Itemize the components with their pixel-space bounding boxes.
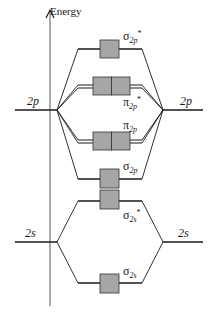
mo-sigma2s: σ2s — [78, 264, 142, 293]
orbital-box — [100, 169, 119, 188]
left-2p-label: 2p — [27, 94, 39, 108]
mo-diagram: Energy 2p 2p 2s 2s σ2p* — [0, 0, 212, 317]
mo-label: σ2s* — [123, 208, 141, 224]
orbital-box — [100, 274, 119, 293]
mo-pi2p: π2p — [78, 118, 142, 150]
orbital-box — [100, 190, 119, 209]
mo-pi2p-star: π2p* — [78, 77, 142, 111]
mo-sigma2p: σ2p — [78, 159, 142, 188]
mo-label: σ2p* — [123, 29, 141, 45]
mo-label: σ2p — [123, 159, 137, 175]
energy-axis — [46, 10, 54, 306]
mo-label: π2p — [123, 118, 137, 134]
mo-sigma2s-star: σ2s* — [78, 190, 142, 224]
orbital-box — [112, 132, 131, 150]
orbital-box — [112, 77, 131, 95]
correlation-lines-2s — [57, 201, 163, 283]
mo-sigma2p-star: σ2p* — [78, 29, 142, 58]
mo-label: σ2s — [123, 264, 137, 280]
axis-label: Energy — [50, 5, 82, 17]
correlation-lines-2p — [57, 49, 163, 179]
orbital-box — [93, 77, 112, 95]
left-2s-label: 2s — [25, 226, 36, 240]
mo-label: π2p* — [123, 95, 141, 111]
right-2s-label: 2s — [178, 226, 189, 240]
orbital-box — [100, 40, 119, 58]
right-2p-label: 2p — [180, 94, 192, 108]
orbital-box — [93, 132, 112, 150]
